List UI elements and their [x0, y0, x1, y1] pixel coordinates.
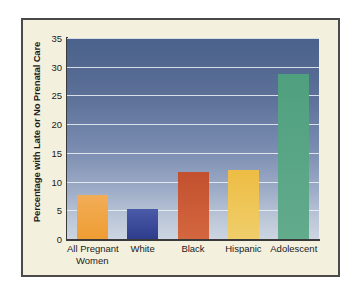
- x-category-label: All PregnantWomen: [67, 243, 117, 266]
- y-tick-label: 5: [57, 205, 62, 216]
- plot-area: [67, 38, 319, 239]
- y-tick-label: 10: [51, 176, 62, 187]
- y-tick-label: 20: [51, 119, 62, 130]
- gridline: [67, 38, 319, 39]
- y-tick-label: 35: [51, 33, 62, 44]
- bar: [228, 170, 259, 239]
- x-category-label: Black: [168, 243, 218, 255]
- bar: [278, 74, 309, 239]
- y-tick-label: 15: [51, 147, 62, 158]
- x-category-label: White: [117, 243, 167, 255]
- gridline: [67, 67, 319, 68]
- x-category-label: Adolescent: [269, 243, 319, 255]
- x-axis-line: [66, 239, 320, 241]
- y-tick-label: 30: [51, 61, 62, 72]
- y-tick-label: 0: [57, 234, 62, 245]
- y-axis-tick-labels: 05101520253035: [41, 20, 65, 275]
- bar: [77, 195, 108, 239]
- bar: [178, 172, 209, 239]
- bar: [127, 209, 158, 239]
- y-tick-label: 25: [51, 90, 62, 101]
- chart-figure-panel: Percentage with Late or No Prenatal Care…: [21, 18, 340, 277]
- x-axis-category-labels: All PregnantWomenWhiteBlackHispanicAdole…: [67, 243, 319, 277]
- x-category-label: Hispanic: [218, 243, 268, 255]
